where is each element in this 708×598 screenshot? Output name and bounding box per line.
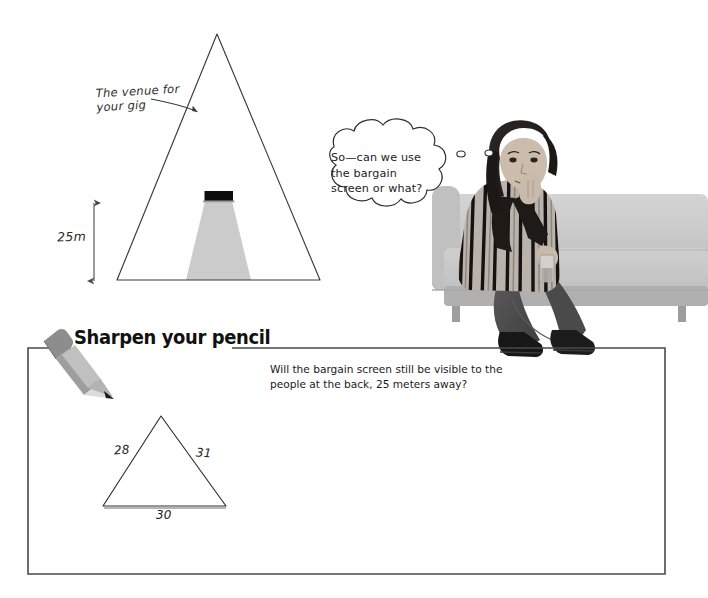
venue-triangle-outline xyxy=(117,34,320,280)
person-hand-with-glass xyxy=(537,245,558,282)
bargain-screen xyxy=(205,191,234,201)
projection-beam xyxy=(186,201,251,280)
height-dimension-label: 25m xyxy=(57,229,86,244)
triangle-label-base: 30 xyxy=(156,508,171,522)
screen-base-shadow xyxy=(203,201,235,203)
triangle-label-left-side: 28 xyxy=(114,442,130,457)
glass xyxy=(540,255,554,282)
person-legs xyxy=(494,276,586,352)
person-forearm xyxy=(512,194,548,246)
person-shirt xyxy=(458,170,560,300)
exercise-title: Sharpen your pencil xyxy=(74,326,270,349)
venue-annotation-text: The venue for your gig xyxy=(95,82,180,115)
exercise-triangle-shape xyxy=(103,416,226,506)
exercise-question-text: Will the bargain screen still be visible… xyxy=(270,362,530,392)
couch xyxy=(432,186,708,322)
thought-bubble-text: So—can we use the bargain screen or what… xyxy=(331,150,443,197)
thought-dot-2 xyxy=(485,150,493,156)
person-head xyxy=(486,120,557,214)
triangle-label-right-side: 31 xyxy=(196,446,212,461)
worksheet-page: The venue for your gig 25m xyxy=(0,0,708,598)
thought-dot-1 xyxy=(457,151,465,157)
person-shoes xyxy=(498,330,595,357)
